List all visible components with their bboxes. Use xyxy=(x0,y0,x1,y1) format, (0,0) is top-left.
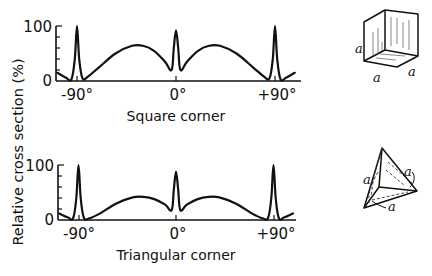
panel-triangular-corner: 100 0 -90° 0° +90° Triangular corner xyxy=(25,157,296,263)
panel-square-corner: 100 0 -90° 0° +90° Square corner xyxy=(23,18,301,124)
y-axis-label: Relative cross section (%) xyxy=(10,58,26,245)
caption-triangular-corner: Triangular corner xyxy=(115,247,235,263)
curve-triangular-corner xyxy=(59,165,293,220)
caption-square-corner: Square corner xyxy=(127,108,226,124)
x-tick-plus-90: +90° xyxy=(257,86,296,104)
y-tick-100: 100 xyxy=(23,18,52,36)
edge-label-a: a xyxy=(363,172,371,187)
cube-diagram: a a a xyxy=(355,10,418,85)
y-tick-0: 0 xyxy=(42,72,52,90)
edge-label-a: a xyxy=(373,70,381,85)
curve-square-corner xyxy=(57,26,295,81)
x-tick-plus-90: +90° xyxy=(256,225,295,243)
edge-label-a: a xyxy=(355,41,363,56)
y-tick-100: 100 xyxy=(25,157,54,175)
edge-label-a: a xyxy=(408,64,416,79)
edge-label-a: a xyxy=(404,164,412,179)
x-tick-0: 0° xyxy=(169,225,186,243)
x-tick-0: 0° xyxy=(169,86,186,104)
x-tick-minus-90: -90° xyxy=(63,225,95,243)
x-tick-minus-90: -90° xyxy=(61,86,93,104)
edge-label-a: a xyxy=(388,199,396,214)
y-tick-0: 0 xyxy=(44,211,54,229)
figure: Relative cross section (%) 100 0 -90° 0°… xyxy=(0,0,432,276)
trihedral-corner-diagram: a a a xyxy=(363,148,417,214)
